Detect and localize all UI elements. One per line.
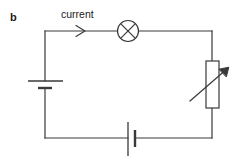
- circuit-diagram-canvas: b current: [0, 0, 241, 159]
- variable-resistor-symbol: [190, 61, 229, 108]
- cell-bottom-symbol: [128, 122, 135, 156]
- current-label: current: [61, 9, 94, 20]
- part-label: b: [10, 12, 17, 23]
- wire-loop: [45, 31, 212, 138]
- variable-resistor-box: [206, 61, 219, 108]
- variable-resistor-arrowhead: [219, 67, 229, 76]
- cell-left-symbol: [28, 81, 63, 88]
- circuit-schematic: [0, 0, 241, 159]
- lamp-symbol: [118, 21, 139, 42]
